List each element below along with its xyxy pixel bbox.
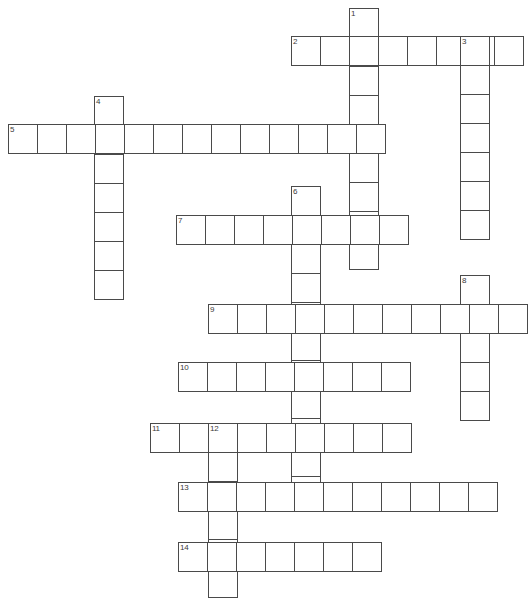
crossword-cell[interactable] bbox=[124, 124, 154, 154]
crossword-cell[interactable] bbox=[178, 482, 208, 512]
crossword-cell[interactable] bbox=[295, 423, 325, 453]
crossword-cell[interactable] bbox=[207, 542, 237, 572]
crossword-cell[interactable] bbox=[237, 304, 267, 334]
crossword-cell[interactable] bbox=[291, 244, 321, 274]
crossword-cell[interactable] bbox=[211, 124, 241, 154]
crossword-cell[interactable] bbox=[240, 124, 270, 154]
crossword-cell[interactable] bbox=[321, 215, 351, 245]
crossword-cell[interactable] bbox=[352, 542, 382, 572]
crossword-cell[interactable] bbox=[460, 94, 490, 124]
crossword-cell[interactable] bbox=[291, 389, 321, 419]
crossword-cell[interactable] bbox=[208, 304, 238, 334]
crossword-cell[interactable] bbox=[324, 304, 354, 334]
crossword-cell[interactable] bbox=[94, 96, 124, 126]
crossword-cell[interactable] bbox=[349, 95, 379, 125]
crossword-cell[interactable] bbox=[207, 362, 237, 392]
crossword-cell[interactable] bbox=[291, 331, 321, 361]
crossword-cell[interactable] bbox=[8, 124, 38, 154]
crossword-cell[interactable] bbox=[94, 154, 124, 184]
crossword-cell[interactable] bbox=[323, 482, 353, 512]
crossword-cell[interactable] bbox=[382, 304, 412, 334]
crossword-cell[interactable] bbox=[208, 568, 238, 598]
crossword-cell[interactable] bbox=[460, 181, 490, 211]
crossword-cell[interactable] bbox=[236, 482, 266, 512]
crossword-cell[interactable] bbox=[498, 304, 528, 334]
crossword-cell[interactable] bbox=[407, 36, 437, 66]
crossword-cell[interactable] bbox=[494, 36, 524, 66]
crossword-cell[interactable] bbox=[381, 482, 411, 512]
crossword-cell[interactable] bbox=[460, 123, 490, 153]
crossword-cell[interactable] bbox=[382, 423, 412, 453]
crossword-cell[interactable] bbox=[350, 215, 380, 245]
crossword-cell[interactable] bbox=[263, 215, 293, 245]
crossword-cell[interactable] bbox=[411, 304, 441, 334]
crossword-cell[interactable] bbox=[410, 482, 440, 512]
crossword-cell[interactable] bbox=[208, 423, 238, 453]
crossword-cell[interactable] bbox=[176, 215, 206, 245]
crossword-cell[interactable] bbox=[298, 124, 328, 154]
crossword-cell[interactable] bbox=[236, 542, 266, 572]
crossword-cell[interactable] bbox=[353, 423, 383, 453]
crossword-cell[interactable] bbox=[349, 36, 379, 66]
crossword-cell[interactable] bbox=[381, 362, 411, 392]
crossword-cell[interactable] bbox=[349, 8, 379, 38]
crossword-cell[interactable] bbox=[150, 423, 180, 453]
crossword-cell[interactable] bbox=[460, 362, 490, 392]
crossword-cell[interactable] bbox=[269, 124, 299, 154]
crossword-cell[interactable] bbox=[66, 124, 96, 154]
crossword-cell[interactable] bbox=[94, 241, 124, 271]
crossword-cell[interactable] bbox=[378, 36, 408, 66]
crossword-cell[interactable] bbox=[323, 362, 353, 392]
crossword-cell[interactable] bbox=[292, 215, 322, 245]
crossword-cell[interactable] bbox=[295, 304, 325, 334]
crossword-cell[interactable] bbox=[266, 304, 296, 334]
crossword-cell[interactable] bbox=[291, 36, 321, 66]
crossword-cell[interactable] bbox=[324, 423, 354, 453]
crossword-cell[interactable] bbox=[291, 273, 321, 303]
crossword-cell[interactable] bbox=[294, 482, 324, 512]
crossword-cell[interactable] bbox=[379, 215, 409, 245]
crossword-cell[interactable] bbox=[349, 182, 379, 212]
crossword-cell[interactable] bbox=[439, 482, 469, 512]
crossword-cell[interactable] bbox=[265, 542, 295, 572]
crossword-cell[interactable] bbox=[94, 183, 124, 213]
crossword-cell[interactable] bbox=[178, 362, 208, 392]
crossword-cell[interactable] bbox=[460, 391, 490, 421]
crossword-cell[interactable] bbox=[352, 362, 382, 392]
crossword-cell[interactable] bbox=[182, 124, 212, 154]
crossword-cell[interactable] bbox=[460, 333, 490, 363]
crossword-cell[interactable] bbox=[234, 215, 264, 245]
crossword-cell[interactable] bbox=[208, 452, 238, 482]
crossword-cell[interactable] bbox=[320, 36, 350, 66]
crossword-cell[interactable] bbox=[291, 186, 321, 216]
crossword-cell[interactable] bbox=[205, 215, 235, 245]
crossword-cell[interactable] bbox=[265, 482, 295, 512]
crossword-cell[interactable] bbox=[352, 482, 382, 512]
crossword-cell[interactable] bbox=[349, 153, 379, 183]
crossword-cell[interactable] bbox=[349, 66, 379, 96]
crossword-cell[interactable] bbox=[178, 542, 208, 572]
crossword-cell[interactable] bbox=[94, 270, 124, 300]
crossword-cell[interactable] bbox=[94, 212, 124, 242]
crossword-cell[interactable] bbox=[266, 423, 296, 453]
crossword-cell[interactable] bbox=[353, 304, 383, 334]
crossword-cell[interactable] bbox=[460, 275, 490, 305]
crossword-cell[interactable] bbox=[236, 362, 266, 392]
crossword-cell[interactable] bbox=[460, 65, 490, 95]
crossword-cell[interactable] bbox=[208, 510, 238, 540]
crossword-cell[interactable] bbox=[460, 210, 490, 240]
crossword-cell[interactable] bbox=[37, 124, 67, 154]
crossword-cell[interactable] bbox=[440, 304, 470, 334]
crossword-cell[interactable] bbox=[323, 542, 353, 572]
crossword-cell[interactable] bbox=[460, 152, 490, 182]
crossword-cell[interactable] bbox=[237, 423, 267, 453]
crossword-cell[interactable] bbox=[356, 124, 386, 154]
crossword-cell[interactable] bbox=[327, 124, 357, 154]
crossword-cell[interactable] bbox=[153, 124, 183, 154]
crossword-cell[interactable] bbox=[207, 482, 237, 512]
crossword-cell[interactable] bbox=[294, 362, 324, 392]
crossword-cell[interactable] bbox=[468, 482, 498, 512]
crossword-cell[interactable] bbox=[469, 304, 499, 334]
crossword-cell[interactable] bbox=[179, 423, 209, 453]
